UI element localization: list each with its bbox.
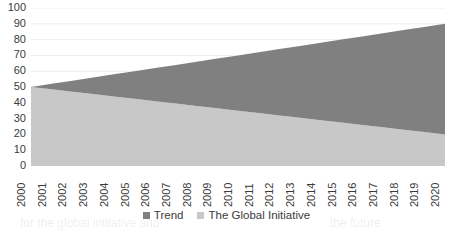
legend-label: Trend — [154, 209, 184, 221]
x-axis-tick-label: 2017 — [368, 183, 379, 207]
x-axis-tick-label: 2016 — [347, 183, 358, 207]
plot-svg — [31, 8, 445, 166]
y-axis-tick-label: 100 — [8, 2, 26, 13]
y-axis-tick-label: 20 — [14, 128, 26, 139]
x-axis-tick-label: 2012 — [264, 183, 275, 207]
legend-swatch-icon — [197, 212, 204, 219]
x-axis-tick-label: 2009 — [202, 183, 213, 207]
legend-label: The Global Initiative — [208, 209, 310, 221]
legend-swatch-icon — [143, 212, 150, 219]
area-chart: the cause of the problem and a more effe… — [0, 0, 453, 232]
y-axis-tick-label: 60 — [14, 65, 26, 76]
y-axis-tick-label: 90 — [14, 18, 26, 29]
x-axis-tick-label: 2005 — [120, 183, 131, 207]
legend-item[interactable]: The Global Initiative — [197, 209, 310, 221]
y-axis-tick-label: 80 — [14, 34, 26, 45]
x-axis-tick-label: 2004 — [99, 183, 110, 207]
y-axis: 0102030405060708090100 — [0, 0, 29, 172]
x-axis-tick-label: 2015 — [327, 183, 338, 207]
x-axis-tick-label: 2019 — [409, 183, 420, 207]
legend-item[interactable]: Trend — [143, 209, 184, 221]
x-axis-tick-label: 2007 — [161, 183, 172, 207]
x-axis-tick-label: 2018 — [389, 183, 400, 207]
x-axis-tick-label: 2010 — [223, 183, 234, 207]
y-axis-tick-label: 70 — [14, 49, 26, 60]
y-axis-tick-label: 40 — [14, 97, 26, 108]
x-axis-tick-label: 2000 — [16, 183, 27, 207]
y-axis-tick-label: 30 — [14, 113, 26, 124]
x-axis-tick-label: 2020 — [430, 183, 441, 207]
x-axis-tick-label: 2008 — [182, 183, 193, 207]
y-axis-tick-label: 0 — [20, 160, 26, 171]
x-axis-tick-label: 2014 — [306, 183, 317, 207]
x-axis-tick-label: 2002 — [57, 183, 68, 207]
x-axis-tick-label: 2006 — [140, 183, 151, 207]
chart-legend: TrendThe Global Initiative — [0, 209, 453, 221]
x-axis: 2000200120022003200420052006200720082009… — [31, 167, 445, 207]
x-axis-tick-label: 2003 — [78, 183, 89, 207]
y-axis-tick-label: 10 — [14, 144, 26, 155]
x-axis-tick-label: 2011 — [244, 183, 255, 207]
x-axis-tick-label: 2001 — [37, 183, 48, 207]
x-axis-tick-label: 2013 — [285, 183, 296, 207]
plot-area — [31, 8, 445, 166]
y-axis-tick-label: 50 — [14, 81, 26, 92]
